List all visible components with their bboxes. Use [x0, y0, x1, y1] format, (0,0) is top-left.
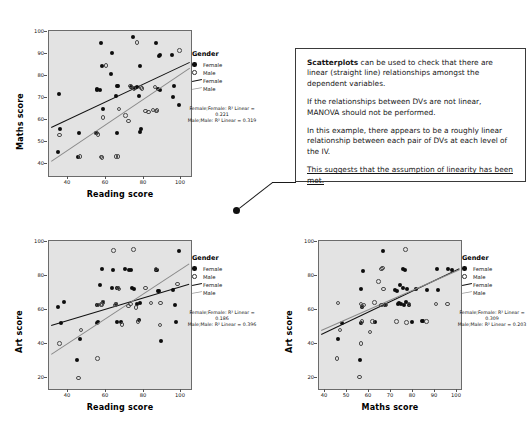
data-point [111, 248, 116, 253]
data-point [110, 286, 114, 290]
legend-label: Male [473, 290, 486, 296]
data-point [100, 267, 104, 271]
r-squared-annotation: Female;Female: R² Linear = 0.309 Male;Ma… [456, 310, 528, 329]
x-axis-label: Reading score [70, 190, 170, 199]
x-tick-70: 70 [383, 392, 397, 398]
data-point [136, 319, 141, 324]
x-tick-40: 40 [317, 392, 331, 398]
data-point [372, 300, 377, 305]
legend-label: Female [203, 62, 222, 68]
data-point [129, 268, 133, 272]
data-point [95, 356, 100, 361]
data-point [135, 40, 140, 45]
data-point [57, 92, 61, 96]
data-point [134, 305, 139, 310]
data-point [410, 320, 414, 324]
data-point [175, 282, 180, 287]
legend-item-female-marker: Female [192, 265, 222, 272]
fit-line-male [51, 263, 190, 355]
legend-title: Gender [192, 254, 222, 262]
fit-line-male [321, 270, 459, 331]
fit-line-male [51, 68, 190, 162]
legend-label: Male [203, 70, 216, 76]
legend-title: Gender [192, 50, 222, 58]
legend: Gender Female Male Female Male [462, 254, 492, 297]
data-point [137, 94, 141, 98]
plot-area [48, 30, 192, 177]
data-point [171, 95, 175, 99]
legend-item-female-line: Female [192, 77, 222, 84]
data-point [57, 341, 62, 346]
data-point [384, 303, 389, 308]
data-point [101, 107, 105, 111]
y-tick-80: 80 [26, 272, 44, 278]
y-axis-label: Maths score [16, 87, 25, 157]
filled-circle-icon [192, 62, 203, 67]
y-tick-70: 70 [26, 94, 44, 100]
legend-item-female-marker: Female [462, 265, 492, 272]
textbox-bold-lead: Scatterplots [307, 58, 358, 67]
y-tick-90: 90 [26, 50, 44, 56]
data-point [158, 323, 163, 328]
x-tick-40: 40 [60, 179, 74, 185]
data-point [171, 288, 175, 292]
data-point [172, 84, 176, 88]
data-point [404, 320, 409, 325]
data-point [115, 84, 119, 88]
y-tick-100: 100 [296, 238, 314, 244]
legend: Gender Female Male Female Male [192, 50, 222, 93]
y-tick-50: 50 [26, 138, 44, 144]
data-point [434, 302, 439, 307]
data-point [368, 330, 373, 335]
x-axis-label: Reading score [70, 403, 170, 412]
data-point [403, 268, 407, 272]
x-tick-60: 60 [361, 392, 375, 398]
data-point [76, 376, 81, 381]
legend-label: Male [203, 86, 216, 92]
data-point [138, 64, 142, 68]
data-point [380, 266, 385, 271]
data-point [155, 108, 160, 113]
data-point [359, 287, 363, 291]
data-point [425, 288, 429, 292]
data-point [159, 339, 163, 343]
data-point [120, 322, 125, 327]
legend-item-male-marker: Male [192, 69, 222, 76]
x-tick-90: 90 [427, 392, 441, 398]
legend-item-female-line: Female [192, 281, 222, 288]
data-point [381, 287, 386, 292]
data-point [394, 319, 399, 324]
data-point [100, 155, 105, 160]
x-tick-60: 60 [98, 392, 112, 398]
solid-line-icon [192, 284, 203, 285]
legend-label: Female [473, 266, 492, 272]
data-point [116, 154, 121, 159]
chart-art-vs-reading: Art score 100 80 60 40 20 40 60 80 100 R… [0, 232, 260, 417]
y-tick-60: 60 [26, 306, 44, 312]
data-point [360, 319, 365, 324]
data-point [445, 302, 450, 307]
open-circle-icon [462, 274, 473, 279]
legend-label: Female [203, 78, 222, 84]
data-point [128, 84, 133, 89]
legend-title: Gender [462, 254, 492, 262]
data-point [57, 133, 62, 138]
legend-label: Male [203, 290, 216, 296]
data-point [78, 154, 83, 159]
data-point [126, 119, 131, 124]
data-point [140, 86, 145, 91]
data-point [101, 115, 106, 120]
plot-area [48, 240, 192, 390]
data-point [338, 328, 343, 333]
legend-item-male-line: Male [192, 85, 222, 92]
data-point [158, 301, 163, 306]
thin-line-icon [192, 292, 203, 293]
callout-textbox: Scatterplots can be used to check that t… [295, 48, 526, 182]
textbox-paragraph-underlined: This suggests that the assumption of lin… [307, 165, 515, 186]
legend-label: Female [203, 282, 222, 288]
data-point [62, 300, 66, 304]
thin-line-icon [462, 292, 473, 293]
data-point [359, 341, 364, 346]
legend-item-female-line: Female [462, 281, 492, 288]
data-point [146, 110, 151, 115]
